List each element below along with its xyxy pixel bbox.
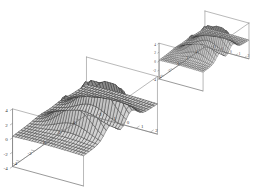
x-tick-label: 2 xyxy=(187,56,189,60)
x-tick-label: 4 xyxy=(196,50,198,54)
y-tick-label: -2 xyxy=(212,45,215,49)
x-tick-label: -4 xyxy=(13,161,18,166)
y-tick-label: -1 xyxy=(221,47,224,51)
y-tick-label: 2 xyxy=(248,54,250,58)
z-tick-label: -2 xyxy=(4,152,9,157)
x-tick-label: -4 xyxy=(159,75,162,79)
z-tick-label: 0 xyxy=(5,137,8,142)
z-tick-label: -4 xyxy=(4,166,9,171)
z-tick-label: 2 xyxy=(5,123,8,128)
z-tick-label: 2 xyxy=(154,51,156,55)
x-tick-label: -2 xyxy=(28,151,33,156)
figure-root: -4-2024-2-1012-4-2024 -4-2024-2-1012-4-2… xyxy=(0,0,262,195)
z-tick-label: 4 xyxy=(5,108,8,113)
z-tick-label: 4 xyxy=(154,43,156,47)
y-tick-label: 0 xyxy=(230,50,232,54)
x-tick-label: -2 xyxy=(168,69,171,73)
surface-plot-inset: -4-2024-2-1012-4-2024 xyxy=(146,2,262,100)
z-tick-label: 0 xyxy=(154,60,156,64)
y-tick-label: -2 xyxy=(98,112,103,117)
z-tick-label: -2 xyxy=(153,69,156,73)
z-tick-label: -4 xyxy=(153,78,156,82)
y-tick-label: 1 xyxy=(239,52,241,56)
surface-plot-large: -4-2024-2-1012-4-2024 xyxy=(0,48,170,195)
y-tick-label: -1 xyxy=(112,116,117,121)
x-tick-label: 0 xyxy=(177,62,179,66)
